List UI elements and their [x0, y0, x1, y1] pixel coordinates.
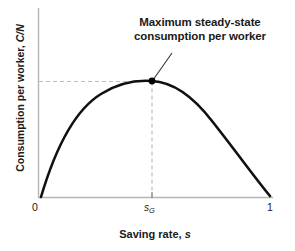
peak-point-marker [149, 78, 156, 85]
x-tick-label-1: 1 [267, 201, 273, 213]
y-axis-label-symbol: C/N [14, 24, 26, 42]
x-axis-label: Saving rate, s [38, 228, 272, 240]
consumption-per-worker-chart: Maximum steady-state consumption per wor… [0, 0, 295, 251]
annotation-leader-line [153, 53, 172, 80]
y-axis-label-text: Consumption per worker, [14, 42, 26, 172]
y-axis-label: Consumption per worker, C/N [14, 0, 26, 198]
annotation-line-1: Maximum steady-state [112, 15, 288, 29]
x-axis-label-text: Saving rate, [119, 228, 184, 240]
consumption-curve [41, 81, 270, 197]
x-axis-label-symbol: s [185, 228, 191, 240]
x-tick-label-0: 0 [32, 201, 38, 213]
x-tick-label-sg: sG [144, 202, 155, 215]
chart-annotation: Maximum steady-state consumption per wor… [112, 15, 288, 43]
annotation-line-2: consumption per worker [112, 29, 288, 43]
sg-subscript: G [149, 206, 155, 215]
